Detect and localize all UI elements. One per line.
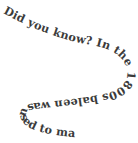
fact-segment-1: Did you know?	[2, 3, 94, 48]
fact-card-canvas: Did you know? In the 1800s baleen was us…	[0, 0, 138, 143]
curved-fact-text: Did you know? In the 1800s baleen was us…	[0, 0, 138, 140]
curved-text-illustration: Did you know? In the 1800s baleen was us…	[0, 0, 138, 143]
